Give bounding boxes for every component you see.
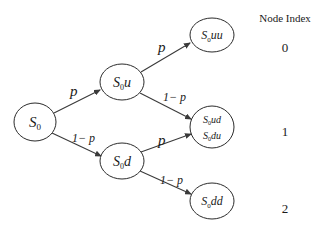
edge-label-s0d-s0dd: 1− p [160, 173, 183, 187]
node-s0u: S0u [100, 64, 144, 100]
edge-label-s0-s0d: 1− p [72, 131, 95, 145]
node-s0: S0 [14, 103, 56, 141]
svg-text:S0dd: S0dd [201, 194, 224, 210]
edge-label-s0u-s0uu: p [157, 39, 166, 55]
binomial-tree-diagram: p 1− p p 1− p p 1− p S0 S0u S0d S0uu S0u… [0, 0, 314, 239]
edge-s0u-to-s0uu [141, 43, 190, 72]
svg-text:S0ud: S0ud [203, 114, 222, 126]
svg-text:S0du: S0du [203, 130, 221, 142]
node-s0ud-s0du: S0ud S0du [190, 106, 234, 148]
node-index-header: Node Index [259, 12, 311, 24]
svg-text:S0uu: S0uu [201, 28, 223, 44]
node-index-1: 1 [282, 124, 289, 139]
node-index-0: 0 [282, 40, 289, 55]
node-s0dd: S0dd [190, 183, 234, 219]
edge-label-s0d-s0du: p [157, 132, 166, 148]
node-s0uu: S0uu [190, 18, 234, 52]
node-index-2: 2 [282, 201, 289, 216]
edge-label-s0-s0u: p [69, 83, 78, 99]
node-s0d: S0d [100, 143, 144, 179]
edge-s0d-to-s0du [141, 134, 191, 152]
edge-label-s0u-s0ud: 1− p [163, 90, 186, 104]
